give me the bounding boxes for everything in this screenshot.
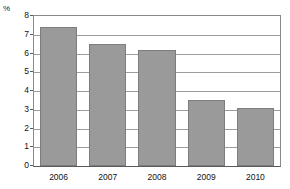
y-axis-tick-label: 2 [5,124,29,133]
y-axis-tick-label: 3 [5,105,29,114]
x-axis-tick-label: 2009 [182,172,231,182]
plot-area [33,15,281,167]
bar [188,100,225,166]
bar-chart: % 012345678 20062007200820092010 [0,0,290,189]
y-axis-tick-label: 7 [5,30,29,39]
x-axis-tick-label: 2006 [34,172,83,182]
y-axis-tick-label: 4 [5,86,29,95]
y-axis-tick-label: 0 [5,161,29,170]
bar [237,108,274,166]
bar [89,44,126,166]
y-axis-tick-label: 1 [5,142,29,151]
x-axis-tick-label: 2010 [231,172,280,182]
y-axis-tick-label: 5 [5,67,29,76]
y-axis-tick-label: 6 [5,49,29,58]
y-axis-tick-label: 8 [5,11,29,20]
bars-layer [34,16,280,166]
x-axis-tick-label: 2007 [83,172,132,182]
x-axis-tick-label: 2008 [132,172,181,182]
bar [40,27,77,166]
bar [138,50,175,166]
